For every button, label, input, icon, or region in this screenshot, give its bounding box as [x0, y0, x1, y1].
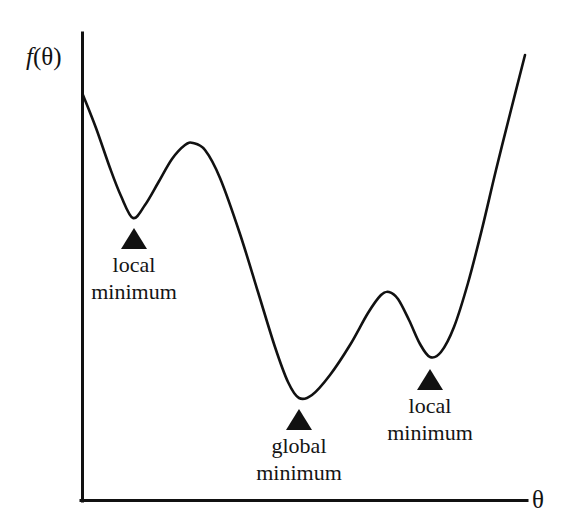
figure-canvas: f(θ) θ localminimumglobalminimumlocalmin…	[0, 0, 575, 523]
x-axis-label: θ	[532, 487, 544, 512]
annotation-global-minimum: globalminimum	[256, 433, 342, 487]
annotation-line-2: minimum	[387, 420, 473, 447]
annotation-local-minimum-left: localminimum	[91, 252, 177, 306]
triangle-up-icon	[286, 409, 312, 430]
triangle-up-icon	[417, 369, 443, 390]
y-axis-label-argument: (θ)	[33, 43, 62, 70]
y-axis-label: f(θ)	[26, 44, 62, 69]
annotation-line-2: minimum	[91, 279, 177, 306]
triangle-up-icon	[121, 228, 147, 249]
objective-function-curve	[83, 55, 525, 399]
annotation-line-1: local	[91, 252, 177, 279]
annotation-line-1: local	[387, 393, 473, 420]
annotation-local-minimum-right: localminimum	[387, 393, 473, 447]
y-axis-label-function-letter: f	[26, 43, 33, 70]
annotation-line-2: minimum	[256, 460, 342, 487]
annotation-line-1: global	[256, 433, 342, 460]
